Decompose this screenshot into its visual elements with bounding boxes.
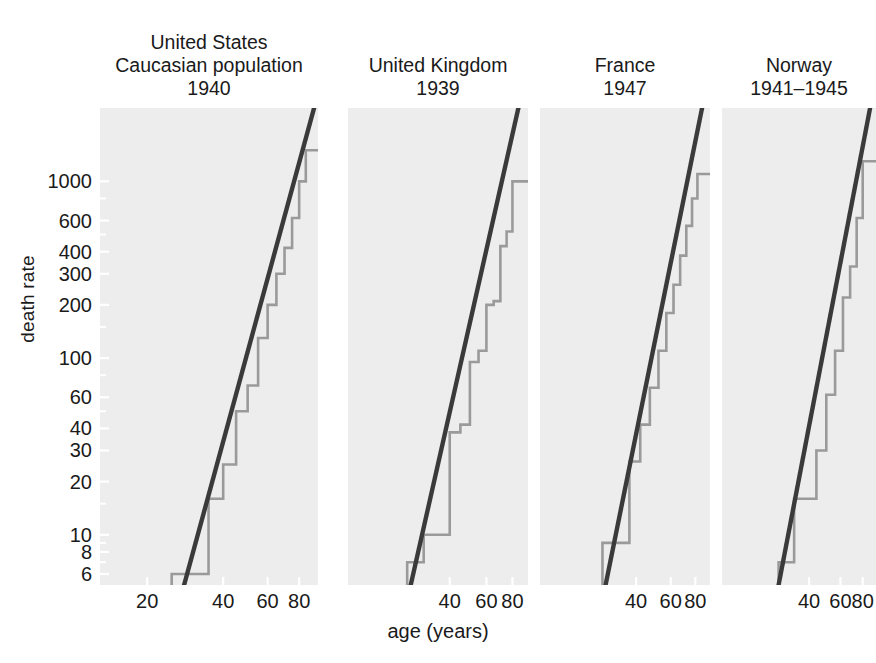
gompertz-fit-line (374, 108, 528, 585)
x-axis-title: age (years) (0, 620, 876, 643)
figure-root: death rate 10006004003002001006040302010… (0, 0, 876, 663)
x-tick-label: 60 (475, 589, 497, 613)
y-tick-label: 600 (30, 211, 92, 231)
x-tick-label: 60 (257, 589, 279, 613)
panel-title-line: United States (40, 31, 378, 54)
x-tick-label: 80 (684, 589, 706, 613)
panel-title-norway: Norway1941–1945 (662, 54, 876, 100)
x-tick-label: 20 (136, 589, 158, 613)
gompertz-fit-line (747, 108, 876, 585)
x-axis-tick-labels-united-kingdom: 406080 (348, 589, 528, 615)
x-axis-tick-labels-france: 406080 (540, 589, 710, 615)
panel-title-line: 1941–1945 (662, 77, 876, 100)
panel-title-line: Norway (662, 54, 876, 77)
y-tick-label: 300 (30, 264, 92, 284)
panel-united-states (100, 108, 318, 585)
y-tick-label: 60 (30, 387, 92, 407)
x-tick-label: 60 (829, 589, 851, 613)
panel-plot-united-kingdom (348, 108, 528, 585)
gompertz-fit-line (573, 108, 710, 585)
x-tick-label: 40 (798, 589, 820, 613)
x-axis-tick-labels-united-states: 20406080 (100, 589, 318, 615)
panel-united-kingdom (348, 108, 528, 585)
y-tick-label: 8 (30, 542, 92, 562)
panel-france (540, 108, 710, 585)
x-tick-label: 80 (288, 589, 310, 613)
x-tick-label: 40 (625, 589, 647, 613)
y-tick-label: 200 (30, 295, 92, 315)
x-axis-tick-labels-norway: 406080 (722, 589, 876, 615)
y-tick-label: 6 (30, 564, 92, 584)
y-tick-label: 1000 (30, 171, 92, 191)
x-tick-label: 40 (212, 589, 234, 613)
y-tick-label: 40 (30, 418, 92, 438)
step-curve (779, 161, 876, 585)
y-tick-label: 400 (30, 242, 92, 262)
panel-plot-united-states (100, 108, 318, 585)
x-tick-label: 80 (852, 589, 874, 613)
y-tick-label: 20 (30, 472, 92, 492)
y-tick-label: 100 (30, 348, 92, 368)
panel-plot-france (540, 108, 710, 585)
gompertz-fit-line (140, 108, 318, 585)
x-tick-label: 40 (439, 589, 461, 613)
x-tick-label: 80 (501, 589, 523, 613)
panel-plot-norway (722, 108, 876, 585)
panel-norway (722, 108, 876, 585)
x-tick-label: 60 (660, 589, 682, 613)
y-tick-label: 30 (30, 440, 92, 460)
